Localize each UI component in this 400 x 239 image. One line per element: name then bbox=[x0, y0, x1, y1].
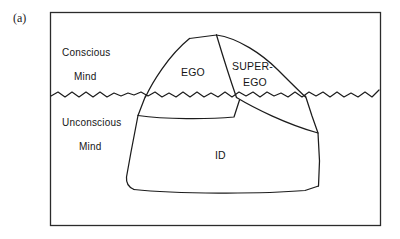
iceberg-diagram: Conscious Mind Unconscious Mind EGO SUPE… bbox=[0, 0, 400, 239]
zone-label-conscious-line1: Conscious bbox=[62, 47, 111, 58]
figure-container: (a) Conscious Mind Unconscious Mind EGO bbox=[0, 0, 400, 239]
structure-label-id: ID bbox=[215, 149, 226, 161]
structure-label-superego-line2: EGO bbox=[243, 76, 267, 88]
structure-label-ego: EGO bbox=[181, 66, 205, 78]
zone-label-unconscious-line1: Unconscious bbox=[62, 117, 121, 128]
zone-label-conscious-line2: Mind bbox=[74, 71, 96, 82]
zone-label-unconscious-line2: Mind bbox=[79, 141, 101, 152]
structure-label-superego-line1: SUPER- bbox=[232, 60, 273, 72]
